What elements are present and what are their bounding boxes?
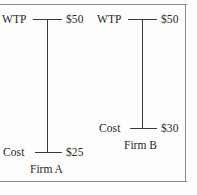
- firm-b-name-label: Firm B: [124, 139, 157, 151]
- firm-b-stem-line: [142, 20, 143, 128]
- firm-b-wtp-tick-mark: [128, 19, 157, 20]
- firm-a-cost-tick-mark: [35, 152, 62, 153]
- firm-b-wtp-label: WTP: [97, 13, 122, 25]
- firm-a-name-label: Firm A: [30, 163, 63, 175]
- firm-b-cost-tick-mark: [130, 128, 157, 129]
- firm-a-cost-value: $25: [66, 146, 84, 158]
- firm-a-stem-line: [47, 20, 48, 152]
- figure-frame-bottom: [0, 181, 187, 182]
- firm-b-cost-value: $30: [161, 122, 179, 134]
- firm-a-wtp-label: WTP: [2, 13, 27, 25]
- value-stick-figure: WTP $50 Cost $25 Firm A WTP $50 Cost $30…: [0, 0, 197, 195]
- figure-frame-right: [185, 4, 186, 182]
- firm-a-cost-label: Cost: [3, 146, 25, 158]
- firm-a-wtp-value: $50: [66, 13, 84, 25]
- firm-a-wtp-tick-mark: [33, 19, 62, 20]
- figure-frame-top: [0, 4, 187, 5]
- firm-b-cost-label: Cost: [99, 122, 121, 134]
- firm-b-wtp-value: $50: [161, 13, 179, 25]
